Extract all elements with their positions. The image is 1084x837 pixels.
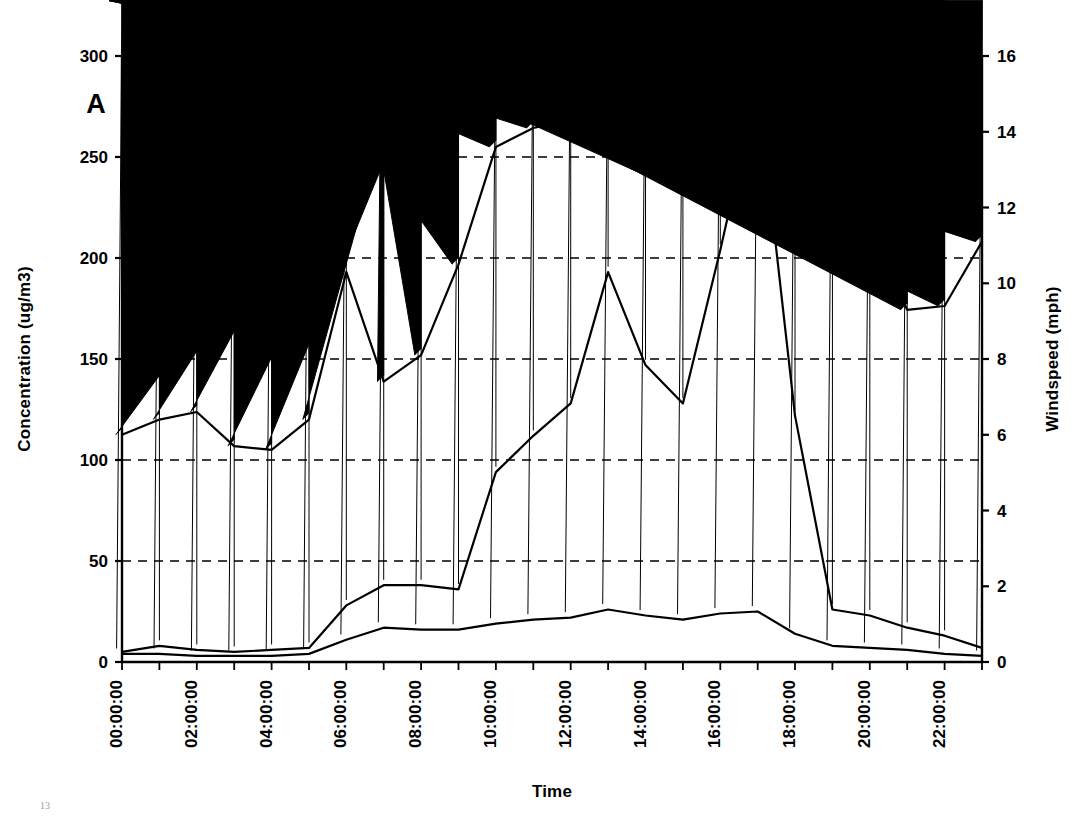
right-axis-tick-label: 12 [997, 199, 1016, 218]
right-axis-tick-label: 14 [997, 123, 1016, 142]
right-axis-tick-label: 2 [997, 577, 1006, 596]
data-series [109, 0, 982, 656]
x-axis-tick-label: 10:00:00 [481, 680, 500, 748]
right-axis-tick-label: 8 [997, 350, 1006, 369]
legend-marker-square-icon [198, 109, 208, 119]
x-axis-tick-label: 22:00:00 [930, 680, 949, 748]
left-axis-tick-label: 250 [80, 148, 108, 167]
x-axis-tick-label: 04:00:00 [257, 680, 276, 748]
right-axis: 0246810121416Windspeed (mph) [982, 47, 1062, 672]
x-axis-tick-label: 14:00:00 [631, 680, 650, 748]
right-axis-title: Windspeed (mph) [1043, 286, 1062, 431]
left-axis-tick-label: 0 [99, 653, 108, 672]
left-axis-tick-label: 100 [80, 451, 108, 470]
series-line [122, 610, 982, 656]
right-axis-tick-label: 4 [997, 502, 1007, 521]
left-axis-tick-label: 150 [80, 350, 108, 369]
x-axis-tick-label: 00:00:00 [107, 680, 126, 748]
right-axis-tick-label: 6 [997, 426, 1006, 445]
left-axis-tick-label: 200 [80, 249, 108, 268]
x-axis-tick-label: 18:00:00 [780, 680, 799, 748]
x-axis-title: Time [532, 782, 572, 801]
x-axis-tick-label: 08:00:00 [406, 680, 425, 748]
x-axis-tick-label: 02:00:00 [182, 680, 201, 748]
figure-panel-a: 050100150200250300Concentration (ug/m3)0… [0, 0, 1084, 837]
legend-label: Wind [232, 131, 273, 150]
x-axis-tick-label: 06:00:00 [331, 680, 350, 748]
x-axis: 00:00:0002:00:0004:00:0006:00:0008:00:00… [107, 662, 982, 801]
x-axis-tick-label: 20:00:00 [855, 680, 874, 748]
x-axis-tick-label: 16:00:00 [705, 680, 724, 748]
scan-artifact: 13 [40, 800, 50, 811]
right-axis-tick-label: 0 [997, 653, 1006, 672]
left-axis-title: Concentration (ug/m3) [15, 266, 34, 452]
left-axis: 050100150200250300Concentration (ug/m3) [15, 47, 122, 672]
left-axis-tick-label: 50 [89, 552, 108, 571]
right-axis-tick-label: 10 [997, 274, 1016, 293]
air-quality-time-series-chart: 050100150200250300Concentration (ug/m3)0… [0, 0, 1084, 837]
legend-label: PM10 [232, 79, 276, 98]
left-axis-tick-label: 300 [80, 47, 108, 66]
right-axis-tick-label: 16 [997, 47, 1016, 66]
x-axis-tick-label: 12:00:00 [556, 680, 575, 748]
legend-label: PM2.5 [232, 105, 281, 124]
panel-letter-group: A [86, 89, 106, 119]
series-wind [109, 0, 982, 450]
panel-letter: A [86, 89, 106, 119]
